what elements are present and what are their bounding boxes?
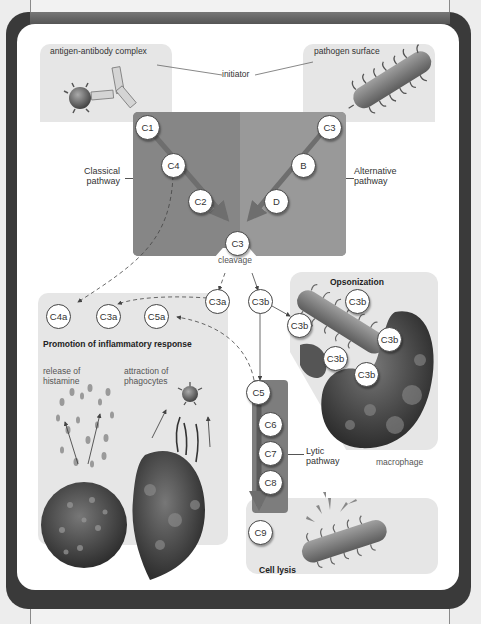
node-c4: C4 bbox=[161, 153, 186, 178]
phagocytes-caption: attraction of phagocytes bbox=[124, 367, 168, 387]
node-d: D bbox=[264, 189, 289, 214]
node-c8: C8 bbox=[258, 470, 283, 495]
cleavage-label: cleavage bbox=[218, 256, 252, 266]
node-c3b-product: C3b bbox=[248, 289, 273, 314]
node-c6: C6 bbox=[258, 412, 283, 437]
node-c3-alternative: C3 bbox=[317, 115, 342, 140]
node-c2: C2 bbox=[188, 189, 213, 214]
node-c3b-opsonin-3: C3b bbox=[377, 327, 402, 352]
node-c3b-opsonin-4: C3b bbox=[323, 346, 348, 371]
alternative-bracket-tick bbox=[346, 178, 354, 179]
antigen-antibody-label: antigen-antibody complex bbox=[50, 47, 147, 57]
initiator-label: initiator bbox=[222, 70, 249, 80]
inflammation-title: Promotion of inflammatory response bbox=[43, 340, 192, 350]
alternative-pathway-label: Alternative pathway bbox=[354, 166, 397, 187]
node-c9: C9 bbox=[248, 520, 273, 545]
opsonization-title: Opsonization bbox=[330, 278, 384, 288]
node-c7: C7 bbox=[258, 441, 283, 466]
node-c3b-opsonin-1: C3b bbox=[345, 289, 370, 314]
frame-top-bar bbox=[30, 12, 450, 24]
classical-pathway-label: Classical pathway bbox=[84, 166, 120, 187]
cell-lysis-title: Cell lysis bbox=[259, 566, 296, 576]
classical-bracket-tick bbox=[125, 178, 133, 179]
histamine-caption: release of histamine bbox=[43, 367, 80, 387]
node-c1: C1 bbox=[135, 115, 160, 140]
node-c3a: C3a bbox=[96, 304, 121, 329]
inflammation-region bbox=[38, 293, 228, 545]
node-b: B bbox=[291, 153, 316, 178]
node-c5a: C5a bbox=[144, 304, 169, 329]
lytic-bracket-tick bbox=[288, 454, 304, 455]
macrophage-label: macrophage bbox=[376, 458, 423, 468]
node-c3-cleavage: C3 bbox=[225, 231, 250, 256]
pathogen-surface-label: pathogen surface bbox=[314, 47, 380, 57]
node-c3b-opsonin-5: C3b bbox=[354, 362, 379, 387]
node-c3b-opsonin-2: C3b bbox=[287, 313, 312, 338]
node-c5: C5 bbox=[246, 380, 271, 405]
node-c4a: C4a bbox=[46, 304, 71, 329]
lytic-pathway-label: Lytic pathway bbox=[306, 446, 340, 467]
node-c3a-product: C3a bbox=[205, 289, 230, 314]
